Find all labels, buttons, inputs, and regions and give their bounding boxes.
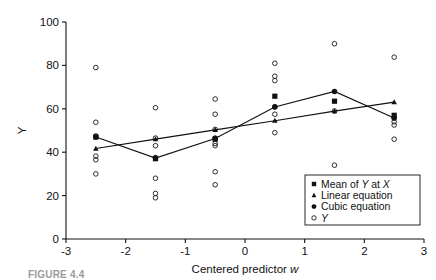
scatter-plot: 020406080100-3-2-10123 Mean of Y at XLin…	[0, 0, 436, 280]
marker-open-circle	[94, 120, 99, 125]
legend-item[interactable]: Mean of Y at X	[312, 179, 391, 190]
x-tick-label: 0	[242, 245, 248, 257]
x-tick-label: 3	[421, 245, 427, 257]
marker-open-circle	[213, 182, 218, 187]
marker-open-circle	[153, 105, 158, 110]
marker-circle	[312, 204, 317, 209]
y-tick-label: 100	[40, 16, 59, 28]
marker-square	[332, 99, 337, 104]
chart-legend: Mean of Y at XLinear equationCubic equat…	[305, 175, 420, 225]
legend-item[interactable]: Cubic equation	[312, 201, 391, 212]
marker-circle	[332, 89, 338, 95]
marker-open-circle	[392, 137, 397, 142]
marker-circle	[93, 134, 99, 140]
figure-container: 020406080100-3-2-10123 Mean of Y at XLin…	[0, 0, 436, 280]
marker-open-circle	[94, 65, 99, 70]
y-tick-label: 80	[46, 59, 59, 71]
marker-open-circle	[273, 61, 278, 66]
legend-label: Cubic equation	[321, 201, 391, 212]
marker-open-circle	[332, 163, 337, 168]
marker-open-circle	[213, 169, 218, 174]
y-tick-label: 40	[46, 146, 59, 158]
marker-open-circle	[392, 123, 397, 128]
marker-square	[272, 94, 277, 99]
marker-open-circle	[213, 97, 218, 102]
x-tick-label: 2	[361, 245, 367, 257]
marker-circle	[272, 104, 278, 110]
marker-open-circle	[392, 55, 397, 60]
marker-circle	[212, 136, 218, 142]
marker-open-circle	[213, 112, 218, 117]
legend-label: Mean of Y at X	[321, 179, 391, 190]
figure-caption-strip: FIGURE 4.4	[0, 270, 436, 280]
y-tick-label: 60	[46, 103, 59, 115]
marker-open-circle	[153, 176, 158, 181]
y-axis-title: Y	[16, 126, 28, 134]
trend-line	[96, 102, 394, 148]
marker-open-circle	[153, 143, 158, 148]
y-tick-label: 0	[53, 233, 59, 245]
figure-caption: FIGURE 4.4	[28, 270, 84, 280]
x-tick-label: -3	[61, 245, 71, 257]
legend-label: Y	[321, 213, 329, 224]
y-tick-label: 20	[46, 190, 59, 202]
marker-open-circle	[332, 41, 337, 46]
legend-label: Linear equation	[321, 190, 393, 201]
marker-open-circle	[94, 172, 99, 177]
legend-item[interactable]: Linear equation	[312, 190, 393, 201]
series-triangle-line	[96, 102, 394, 148]
marker-circle	[153, 155, 159, 161]
marker-triangle	[391, 99, 397, 104]
marker-circle	[391, 115, 397, 121]
marker-open-circle	[273, 130, 278, 135]
marker-open-circle	[273, 112, 278, 117]
marker-square	[312, 182, 316, 186]
x-tick-label: 1	[301, 245, 307, 257]
series-square-markers	[93, 94, 397, 162]
x-tick-label: -1	[180, 245, 190, 257]
x-tick-label: -2	[121, 245, 131, 257]
